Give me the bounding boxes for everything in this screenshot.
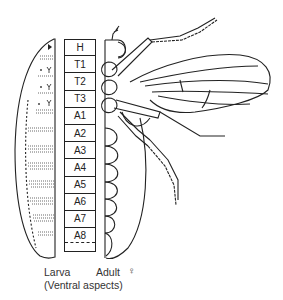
haltere xyxy=(122,112,150,126)
segment-a5: A5 xyxy=(64,177,96,194)
segment-a8-dashed-line xyxy=(65,242,95,243)
adult-body-outline xyxy=(102,26,146,259)
segment-a2: A2 xyxy=(64,125,96,142)
segment-t1: T1 xyxy=(64,56,96,73)
adult-legs xyxy=(112,18,225,205)
fly-diagram-drawing xyxy=(0,0,283,300)
segment-t2: T2 xyxy=(64,73,96,90)
segment-column: H T1 T2 T3 A1 A2 A3 A4 A5 A6 A7 A8 xyxy=(64,39,96,252)
female-symbol-icon: ♀ xyxy=(128,265,136,276)
segment-a7: A7 xyxy=(64,211,96,228)
segment-a8: A8 xyxy=(64,228,96,252)
larva-mouthhook-icon xyxy=(48,44,52,50)
larva-denticle-belts xyxy=(28,56,54,235)
caption: (Ventral aspects) xyxy=(44,279,123,291)
segment-t3: T3 xyxy=(64,91,96,108)
segment-a8-label: A8 xyxy=(74,230,86,241)
segment-a3: A3 xyxy=(64,142,96,159)
segment-a4: A4 xyxy=(64,159,96,176)
adult-label: Adult xyxy=(96,266,120,278)
larva-label: Larva xyxy=(44,266,70,278)
segment-h: H xyxy=(64,39,96,56)
segment-a1: A1 xyxy=(64,108,96,125)
segment-a6: A6 xyxy=(64,194,96,211)
adult-wing xyxy=(130,55,270,113)
